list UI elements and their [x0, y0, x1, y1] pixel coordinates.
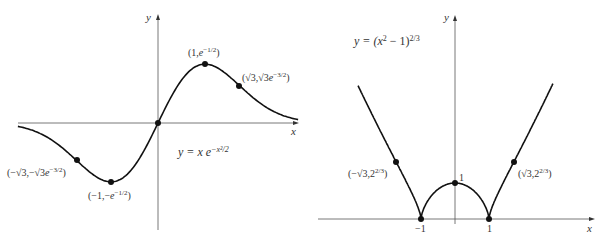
- left-y-axis-label: y: [146, 12, 151, 23]
- right-x-axis-label: x: [587, 223, 592, 234]
- right-curve-left-branch: [358, 86, 421, 219]
- plots-canvas: [0, 0, 600, 240]
- left-inflection-pos-label: (√3,√3e−3/2): [242, 72, 290, 83]
- left-max-point-label: (1,e−1/2): [188, 47, 220, 58]
- left-equation-label: y = x e−x²/2: [178, 146, 229, 158]
- left-inflection-neg-label: (−√3,−√3e−3/2): [7, 167, 66, 178]
- right-left-point-label: (−√3,22/3): [348, 168, 387, 179]
- left-x-axis-label: x: [291, 126, 296, 137]
- right-equation-label: y = (x2 − 1)2/3: [354, 35, 420, 47]
- right-y-axis-label: y: [444, 12, 449, 23]
- right-curve-right-branch: [489, 84, 553, 219]
- right-right-point-label: (√3,22/3): [518, 168, 552, 179]
- right-tick-neg1: −1: [415, 224, 426, 234]
- right-tick-pos1: 1: [487, 224, 492, 234]
- left-min-point-label: (−1,−e−1/2): [88, 190, 131, 201]
- right-tick-y1: 1: [459, 173, 464, 183]
